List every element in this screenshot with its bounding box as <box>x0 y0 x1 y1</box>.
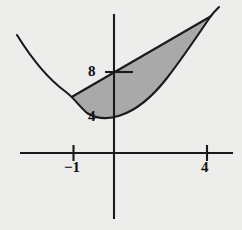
y-axis-tick-label-4: 4 <box>88 109 96 124</box>
y-axis-tick-label-8: 8 <box>88 64 96 79</box>
math-figure: −1 4 8 4 <box>0 0 242 230</box>
x-axis-tick-label-4: 4 <box>201 160 209 175</box>
figure-canvas <box>0 0 242 230</box>
x-axis-tick-label--1: −1 <box>64 160 80 175</box>
